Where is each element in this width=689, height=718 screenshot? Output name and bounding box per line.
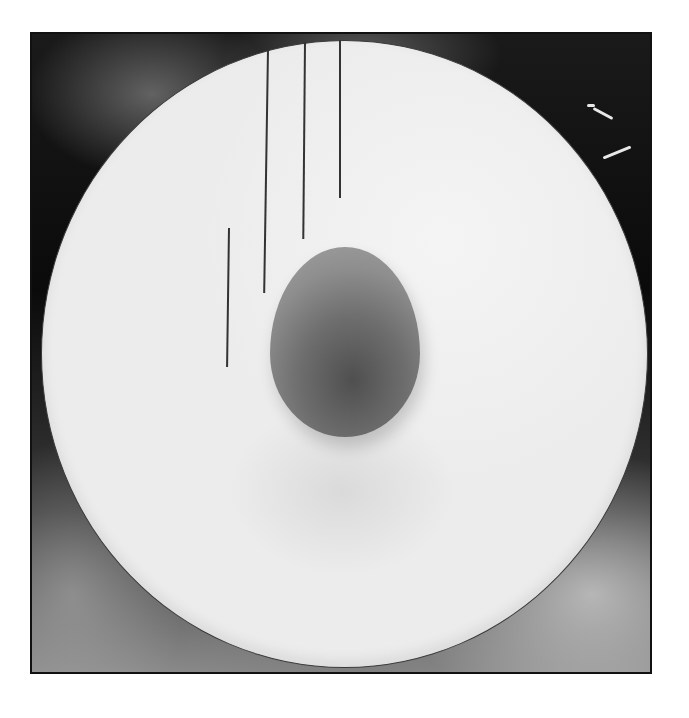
light-streak [603,145,632,159]
light-streak [593,107,614,120]
vertical-line-4 [339,40,341,198]
light-streak [587,104,595,107]
